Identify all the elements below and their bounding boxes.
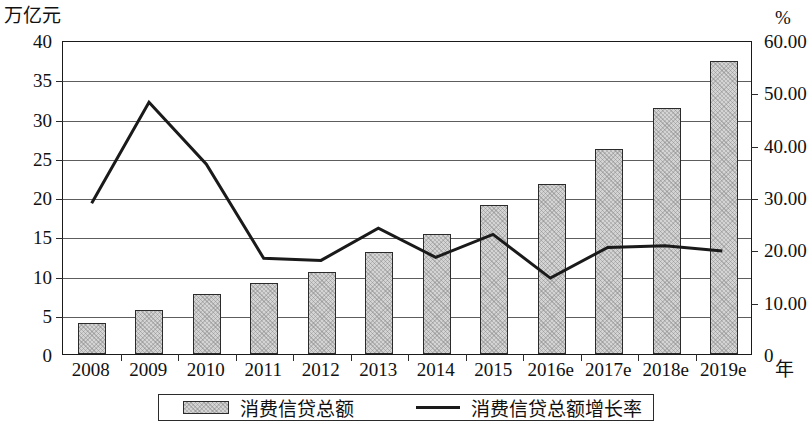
x-axis-tick-mark — [121, 354, 122, 361]
left-axis-tick-label: 30 — [6, 111, 52, 130]
left-axis-tick-label: 0 — [6, 346, 52, 365]
x-axis-tick-mark — [178, 354, 179, 361]
left-axis-tick-mark — [56, 238, 63, 239]
right-axis-tick-label: 0 — [764, 346, 811, 365]
x-axis-tick-label: 2019e — [695, 360, 753, 379]
chart-container: 万亿元 % 年 0510152025303540 010.0020.0030.0… — [0, 0, 811, 423]
legend-entry-line: 消费信贷总额增长率 — [416, 394, 642, 421]
x-axis-tick-label: 2010 — [177, 360, 235, 379]
left-axis-tick-mark — [56, 121, 63, 122]
right-axis-tick-mark — [751, 251, 758, 252]
legend-bar-label: 消费信贷总额 — [240, 394, 354, 421]
x-axis-tick-mark — [466, 354, 467, 361]
right-axis-tick-label: 50.00 — [764, 84, 811, 103]
right-axis-tick-mark — [751, 199, 758, 200]
plot-area — [62, 41, 752, 355]
left-axis-tick-label: 20 — [6, 189, 52, 208]
left-axis-tick-mark — [56, 317, 63, 318]
left-axis-tick-label: 5 — [6, 307, 52, 326]
right-axis-unit-label: % — [775, 8, 791, 27]
right-axis-tick-label: 10.00 — [764, 294, 811, 313]
left-axis-tick-mark — [56, 160, 63, 161]
left-axis-tick-label: 25 — [6, 150, 52, 169]
right-axis-tick-mark — [751, 147, 758, 148]
x-axis-tick-mark — [523, 354, 524, 361]
right-axis-tick-label: 40.00 — [764, 137, 811, 156]
legend-bar-swatch-icon — [183, 401, 229, 414]
left-axis-tick-label: 10 — [6, 268, 52, 287]
left-axis-tick-label: 15 — [6, 228, 52, 247]
left-axis-tick-mark — [56, 81, 63, 82]
x-axis-tick-label: 2015 — [465, 360, 523, 379]
left-axis-tick-mark — [56, 278, 63, 279]
x-axis-tick-label: 2008 — [62, 360, 120, 379]
x-axis-tick-label: 2011 — [235, 360, 293, 379]
right-axis-tick-mark — [751, 94, 758, 95]
x-axis-tick-mark — [351, 354, 352, 361]
right-axis-tick-mark — [751, 304, 758, 305]
x-axis-tick-label: 2018e — [637, 360, 695, 379]
x-axis-tick-label: 2017e — [580, 360, 638, 379]
right-axis-tick-label: 30.00 — [764, 189, 811, 208]
x-axis-tick-label: 2014 — [407, 360, 465, 379]
x-axis-tick-mark — [696, 354, 697, 361]
x-axis-tick-mark — [293, 354, 294, 361]
x-axis-tick-label: 2009 — [120, 360, 178, 379]
left-axis-tick-mark — [56, 199, 63, 200]
left-axis-tick-label: 35 — [6, 71, 52, 90]
x-axis-tick-mark — [408, 354, 409, 361]
legend-line-swatch-icon — [416, 406, 460, 409]
x-axis-tick-mark — [236, 354, 237, 361]
x-axis-tick-label: 2016e — [522, 360, 580, 379]
legend-line-label: 消费信贷总额增长率 — [471, 394, 642, 421]
x-axis-tick-label: 2013 — [350, 360, 408, 379]
left-axis-tick-label: 40 — [6, 32, 52, 51]
x-axis-tick-mark — [581, 354, 582, 361]
x-axis-tick-label: 2012 — [292, 360, 350, 379]
right-axis-tick-label: 60.00 — [764, 32, 811, 51]
legend-entry-bar: 消费信贷总额 — [183, 394, 354, 421]
left-axis-unit-label: 万亿元 — [4, 6, 61, 25]
chart-legend: 消费信贷总额 消费信贷总额增长率 — [158, 394, 654, 421]
x-axis-tick-mark — [638, 354, 639, 361]
line-series — [63, 42, 751, 354]
right-axis-tick-label: 20.00 — [764, 241, 811, 260]
